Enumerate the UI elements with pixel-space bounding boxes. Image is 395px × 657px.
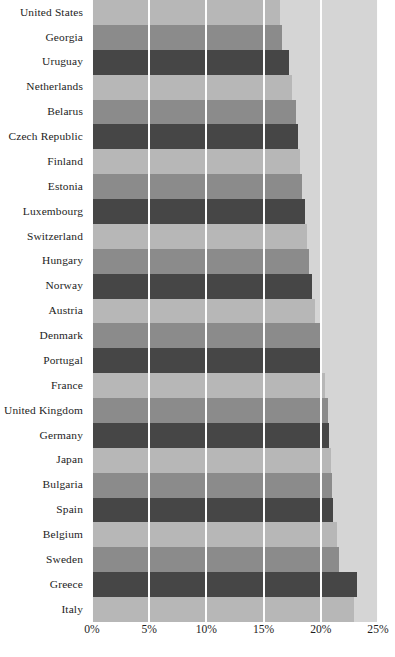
category-label: Uruguay — [0, 50, 88, 75]
bar — [92, 174, 302, 199]
bar — [92, 100, 296, 125]
bar — [92, 299, 315, 324]
category-label: Spain — [0, 498, 88, 523]
bar — [92, 224, 307, 249]
bar-row — [92, 0, 378, 25]
bar — [92, 423, 329, 448]
category-label: Bulgaria — [0, 473, 88, 498]
category-label: Czech Republic — [0, 124, 88, 149]
bar — [92, 373, 325, 398]
bar-row — [92, 373, 378, 398]
bar-row — [92, 224, 378, 249]
category-label: United States — [0, 0, 88, 25]
x-tick-label: 10% — [196, 624, 217, 636]
bar — [92, 0, 280, 25]
bar — [92, 348, 322, 373]
category-label: Finland — [0, 149, 88, 174]
category-label: Denmark — [0, 323, 88, 348]
category-label: Belgium — [0, 522, 88, 547]
x-tick-label: 5% — [141, 624, 156, 636]
bar — [92, 323, 321, 348]
bar-row — [92, 448, 378, 473]
category-label: Sweden — [0, 547, 88, 572]
bar — [92, 498, 333, 523]
bar-row — [92, 50, 378, 75]
bar-row — [92, 25, 378, 50]
bar — [92, 199, 305, 224]
category-label: Austria — [0, 299, 88, 324]
category-label: France — [0, 373, 88, 398]
category-label: Netherlands — [0, 75, 88, 100]
bar — [92, 124, 298, 149]
bar-row — [92, 249, 378, 274]
bar-row — [92, 174, 378, 199]
bar-row — [92, 124, 378, 149]
bar — [92, 398, 328, 423]
bar-chart: United StatesGeorgiaUruguayNetherlandsBe… — [0, 0, 395, 657]
category-label: Luxembourg — [0, 199, 88, 224]
bar — [92, 149, 300, 174]
bar-row — [92, 100, 378, 125]
category-axis-labels: United StatesGeorgiaUruguayNetherlandsBe… — [0, 0, 88, 622]
x-tick-label: 20% — [310, 624, 331, 636]
bar — [92, 522, 337, 547]
category-label: Germany — [0, 423, 88, 448]
category-label: Japan — [0, 448, 88, 473]
category-label: Greece — [0, 572, 88, 597]
bar-row — [92, 398, 378, 423]
bar-row — [92, 522, 378, 547]
category-label: Georgia — [0, 25, 88, 50]
category-label: Portugal — [0, 348, 88, 373]
x-tick-label: 15% — [253, 624, 274, 636]
bar-row — [92, 423, 378, 448]
x-tick-label: 25% — [367, 624, 388, 636]
x-tick-label: 0% — [84, 624, 99, 636]
category-label: Italy — [0, 597, 88, 622]
bar-row — [92, 547, 378, 572]
bar — [92, 448, 331, 473]
bar-row — [92, 323, 378, 348]
plot-area — [92, 0, 378, 622]
bar-row — [92, 572, 378, 597]
bar — [92, 473, 332, 498]
category-label: Estonia — [0, 174, 88, 199]
chart-caption — [0, 650, 395, 657]
bar-row — [92, 75, 378, 100]
bars-container — [92, 0, 378, 622]
bar-row — [92, 498, 378, 523]
bar — [92, 547, 339, 572]
bar — [92, 572, 357, 597]
bar — [92, 274, 312, 299]
bar-row — [92, 348, 378, 373]
bar — [92, 249, 309, 274]
bar — [92, 50, 289, 75]
x-axis: 0%5%10%15%20%25% — [92, 624, 378, 648]
bar-row — [92, 299, 378, 324]
bar-row — [92, 149, 378, 174]
bar-row — [92, 274, 378, 299]
bar — [92, 25, 282, 50]
category-label: United Kingdom — [0, 398, 88, 423]
category-label: Norway — [0, 274, 88, 299]
bar-row — [92, 199, 378, 224]
category-label: Belarus — [0, 100, 88, 125]
bar — [92, 597, 354, 622]
bar — [92, 75, 292, 100]
bar-row — [92, 597, 378, 622]
category-label: Switzerland — [0, 224, 88, 249]
category-label: Hungary — [0, 249, 88, 274]
bar-row — [92, 473, 378, 498]
